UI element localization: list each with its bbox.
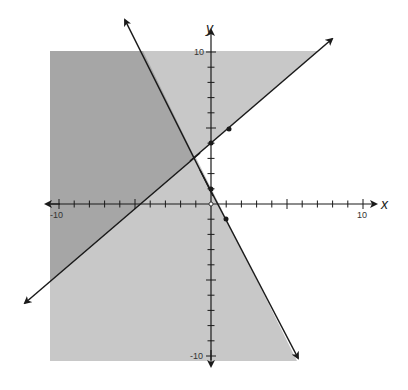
y-max-label: 10: [194, 47, 204, 57]
point-rising-second: [227, 127, 232, 132]
inequality-graph: -10 10 10 -10 x y: [0, 0, 408, 390]
x-max-label: 10: [357, 210, 367, 220]
x-axis-label: x: [380, 196, 389, 212]
x-min-label: -10: [50, 210, 63, 220]
y-axis-label: y: [205, 20, 214, 36]
y-min-label: -10: [190, 351, 203, 361]
origin-marker: [209, 202, 213, 206]
point-steep-1-neg1: [224, 217, 229, 222]
point-steep-0-1: [209, 187, 214, 192]
point-rising-0-4: [209, 141, 214, 146]
